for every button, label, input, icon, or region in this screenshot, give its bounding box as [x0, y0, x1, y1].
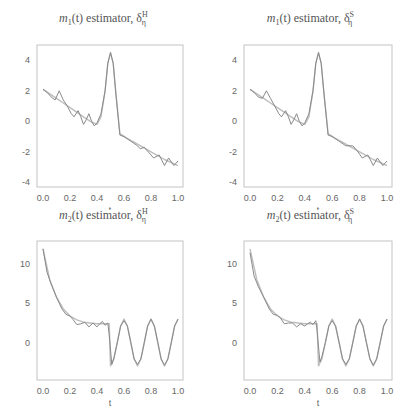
x-tick-label: 0.0 [244, 386, 257, 396]
y-tick-label: 2 [232, 86, 237, 96]
x-tick-label: 0.4 [299, 386, 312, 396]
plot-area: 420-2-40.00.20.40.60.81.0t [207, 0, 411, 210]
series-estimate-line [43, 53, 178, 166]
y-tick-label: -2 [229, 147, 237, 157]
x-tick-label: 0.6 [118, 193, 131, 203]
x-axis-label: t [109, 398, 112, 408]
y-tick-label: 0 [25, 116, 30, 126]
y-tick-label: -2 [22, 147, 30, 157]
y-tick-label: 10 [20, 259, 30, 269]
x-tick-label: 0.4 [91, 193, 104, 203]
x-tick-label: 0.6 [118, 386, 131, 396]
x-tick-label: 0.2 [64, 386, 77, 396]
y-tick-label: 0 [232, 338, 237, 348]
y-tick-label: 5 [232, 298, 237, 308]
series-estimate-line [43, 249, 178, 365]
x-tick-label: 0.0 [37, 193, 50, 203]
y-tick-label: 5 [25, 298, 30, 308]
x-tick-label: 0.8 [145, 386, 158, 396]
panel-m2-H: m2(t) estimator, δHη 10500.00.20.40.60.8… [0, 210, 205, 420]
plot-frame [37, 45, 183, 187]
x-tick-label: 1.0 [381, 386, 394, 396]
x-tick-label: 1.0 [172, 193, 185, 203]
panel-m2-S: m2(t) estimator, δSη 10500.00.20.40.60.8… [207, 210, 411, 420]
x-tick-label: 0.8 [353, 386, 366, 396]
y-tick-label: 0 [25, 338, 30, 348]
y-tick-label: 4 [25, 55, 30, 65]
x-tick-label: 0.4 [91, 386, 104, 396]
y-tick-label: 10 [227, 259, 237, 269]
x-axis-label: t [317, 398, 320, 408]
panel-m1-S: m1(t) estimator, δSη 420-2-40.00.20.40.6… [207, 0, 411, 210]
plot-area: 420-2-40.00.20.40.60.81.0t [0, 0, 205, 210]
x-tick-label: 0.2 [271, 193, 284, 203]
x-tick-label: 0.8 [353, 193, 366, 203]
y-tick-label: -4 [229, 177, 237, 187]
x-tick-label: 0.2 [64, 193, 77, 203]
plot-area: 10500.00.20.40.60.81.0t [0, 210, 205, 420]
y-tick-label: 0 [232, 116, 237, 126]
series-true-line [43, 53, 178, 166]
x-tick-label: 1.0 [381, 193, 394, 203]
y-tick-label: 4 [232, 55, 237, 65]
panel-m1-H: m1(t) estimator, δHη 420-2-40.00.20.40.6… [0, 0, 205, 210]
x-tick-label: 0.0 [37, 386, 50, 396]
x-tick-label: 0.4 [299, 193, 312, 203]
x-tick-label: 0.6 [326, 193, 339, 203]
plot-frame [244, 45, 392, 187]
x-tick-label: 1.0 [172, 386, 185, 396]
y-tick-label: 2 [25, 86, 30, 96]
series-true-line [250, 53, 387, 166]
y-tick-label: -4 [22, 177, 30, 187]
x-tick-label: 0.6 [326, 386, 339, 396]
series-estimate-line [250, 53, 387, 166]
x-tick-label: 0.0 [244, 193, 257, 203]
x-tick-label: 0.8 [145, 193, 158, 203]
plot-area: 10500.00.20.40.60.81.0t [207, 210, 411, 420]
x-tick-label: 0.2 [271, 386, 284, 396]
